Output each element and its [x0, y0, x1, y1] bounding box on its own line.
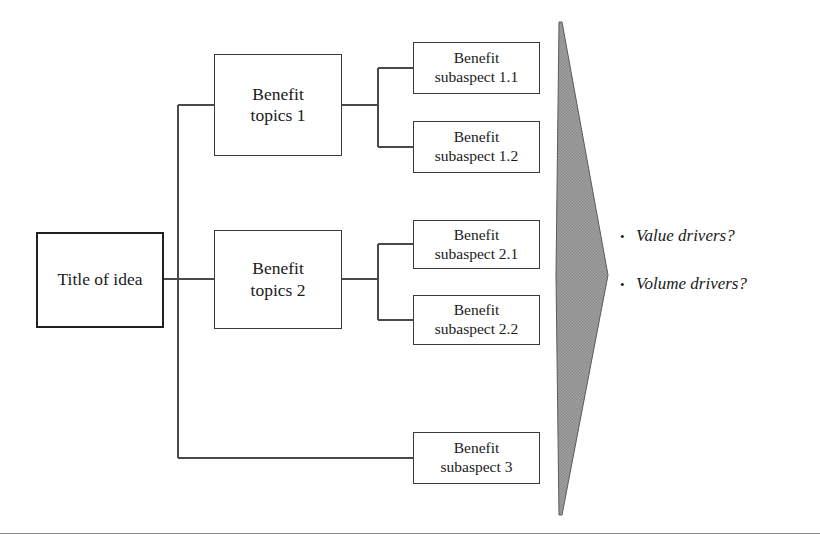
- node-label: Benefit subaspect 2.1: [429, 226, 525, 264]
- arrow-body-fill: [560, 23, 606, 513]
- bullet-icon: •: [620, 230, 636, 243]
- callout-label: Value drivers?: [636, 226, 735, 246]
- node-label: Benefit subaspect 1.2: [429, 128, 525, 166]
- node-label: Benefit topics 1: [245, 84, 312, 127]
- node-benefit-subaspect-1-2[interactable]: Benefit subaspect 1.2: [413, 121, 540, 173]
- node-label: Benefit subaspect 1.1: [429, 49, 525, 87]
- node-label: Benefit subaspect 3: [435, 439, 519, 477]
- node-benefit-subaspect-2-2[interactable]: Benefit subaspect 2.2: [413, 295, 540, 345]
- callout-item-value-drivers: • Value drivers?: [620, 226, 816, 246]
- node-label: Benefit subaspect 2.2: [429, 301, 525, 339]
- node-benefit-subaspect-3[interactable]: Benefit subaspect 3: [413, 432, 540, 484]
- footer-divider: [0, 533, 820, 534]
- diagram-canvas: Title of idea Benefit topics 1 Benefit t…: [0, 0, 820, 541]
- node-title-of-idea[interactable]: Title of idea: [36, 232, 164, 328]
- callout-item-volume-drivers: • Volume drivers?: [620, 274, 816, 294]
- callout-list: • Value drivers? • Volume drivers?: [620, 226, 816, 294]
- node-label: Title of idea: [52, 269, 149, 290]
- node-benefit-subaspect-2-1[interactable]: Benefit subaspect 2.1: [413, 220, 540, 269]
- bullet-icon: •: [620, 278, 636, 291]
- node-benefit-topics-1[interactable]: Benefit topics 1: [214, 54, 342, 156]
- callout-label: Volume drivers?: [636, 274, 747, 294]
- node-benefit-topics-2[interactable]: Benefit topics 2: [214, 230, 342, 329]
- node-label: Benefit topics 2: [245, 258, 312, 301]
- node-benefit-subaspect-1-1[interactable]: Benefit subaspect 1.1: [413, 42, 540, 94]
